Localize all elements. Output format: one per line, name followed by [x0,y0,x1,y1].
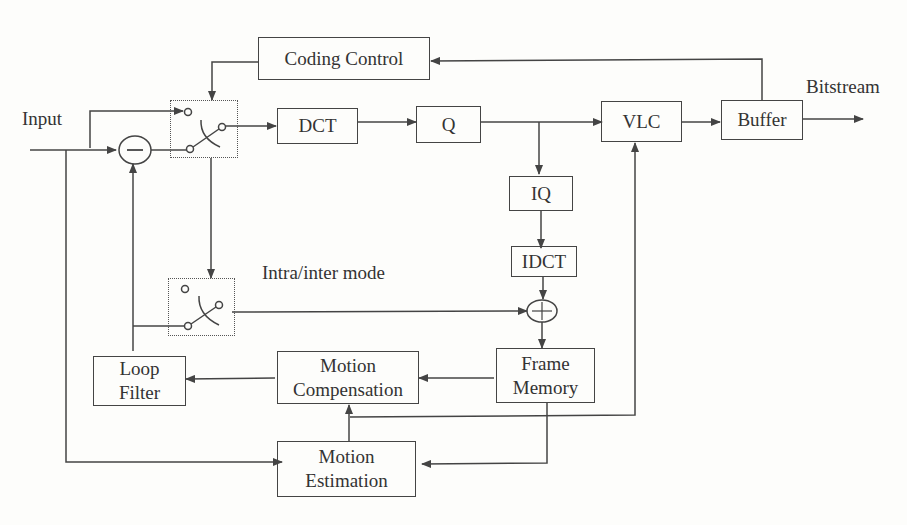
frame-memory-label-line1: Frame [521,352,570,376]
frame-memory-block: Frame Memory [496,348,595,403]
frame-memory-label-line2: Memory [513,376,578,400]
buffer-to-cc-line [431,59,762,100]
adder-node [527,300,557,322]
coding-control-block: Coding Control [258,37,430,80]
dct-label: DCT [299,114,337,138]
switch2-to-add-line [232,311,527,312]
idct-block: IDCT [511,246,577,277]
q-block: Q [416,106,481,143]
iq-block: IQ [509,176,573,211]
motion-estimation-label-line2: Estimation [305,469,387,493]
motion-compensation-label-line2: Compensation [293,378,403,402]
mode-label: Intra/inter mode [262,262,385,284]
loop-filter-block: Loop Filter [93,356,186,406]
mode-switch-top [170,100,238,158]
motion-compensation-block: Motion Compensation [277,351,419,404]
connections-layer [0,0,907,525]
idct-label: IDCT [522,250,566,274]
fm-to-me-line [422,403,547,464]
coding-control-label: Coding Control [285,47,404,71]
loop-filter-label-line1: Loop [119,357,159,381]
vlc-block: VLC [601,101,682,142]
q-label: Q [442,113,456,137]
dct-block: DCT [277,108,358,144]
subtractor-node [119,136,151,164]
mode-switch-bottom [168,278,235,336]
iq-label: IQ [531,182,551,206]
bitstream-label: Bitstream [806,76,880,98]
input-label: Input [22,108,62,130]
motion-estimation-block: Motion Estimation [277,441,416,497]
motion-compensation-label-line1: Motion [320,354,376,378]
cc-to-switch-line [212,62,258,100]
mc-to-lf-line [186,378,275,379]
buffer-label: Buffer [737,108,786,132]
vlc-label: VLC [623,110,661,134]
loop-filter-label-line2: Filter [119,381,160,405]
motion-estimation-label-line1: Motion [319,445,375,469]
buffer-block: Buffer [721,100,803,140]
